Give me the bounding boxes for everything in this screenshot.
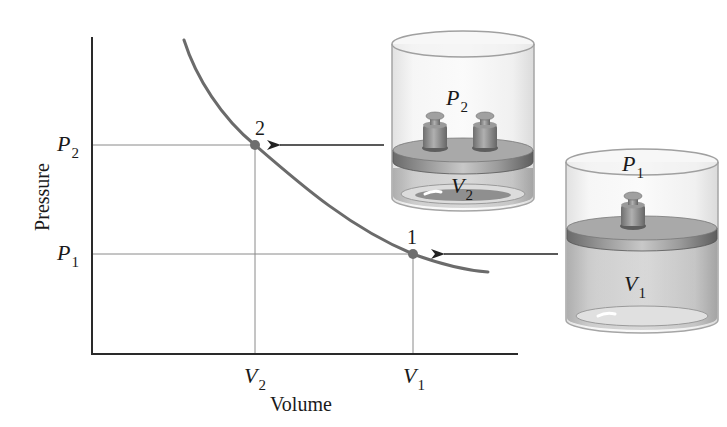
x-tick-v1-sub: 1 (417, 377, 425, 393)
piston-top-2 (393, 138, 533, 162)
point-2-marker (250, 140, 260, 150)
guide-lines (92, 145, 413, 354)
beaker-2-volume-var: V (451, 173, 464, 198)
diagram-canvas (0, 0, 727, 427)
beaker-2-volume-sub: 2 (465, 187, 473, 203)
beaker-base-1 (576, 306, 708, 326)
boyles-law-diagram: P2 P1 Pressure V2 V1 Volume 2 1 P2 V2 P1… (0, 0, 727, 427)
beaker-1-volume-sub: 1 (638, 285, 646, 301)
x-tick-v2-sub: 2 (258, 377, 266, 393)
x-tick-v2-var: V (244, 363, 257, 388)
x-tick-v1: V1 (403, 365, 425, 387)
y-tick-p1-sub: 1 (71, 254, 79, 270)
beaker-1-volume-var: V (624, 271, 637, 296)
y-tick-p2: P2 (57, 133, 79, 155)
point-1-label: 1 (407, 227, 417, 247)
point-2-label: 2 (255, 118, 265, 138)
y-tick-p2-var: P (57, 131, 70, 156)
x-tick-v1-var: V (403, 363, 416, 388)
point-1-marker (408, 249, 418, 259)
beaker-1-volume-label: V1 (624, 273, 646, 295)
beaker-rim-2 (392, 31, 534, 57)
x-axis-title: Volume (270, 394, 332, 414)
y-tick-p1-var: P (57, 240, 70, 265)
beaker-2-pressure-label: P2 (446, 87, 468, 109)
beaker-2-pressure-var: P (446, 85, 459, 110)
y-tick-p1: P1 (57, 242, 79, 264)
beaker-1-pressure-sub: 1 (636, 165, 644, 181)
beaker-1-pressure-var: P (622, 151, 635, 176)
y-axis-title: Pressure (32, 157, 52, 237)
beaker-1-pressure-label: P1 (622, 153, 644, 175)
y-tick-p2-sub: 2 (71, 145, 79, 161)
beaker-2-volume-label: V2 (451, 175, 473, 197)
x-tick-v2: V2 (244, 365, 266, 387)
beaker-2-pressure-sub: 2 (460, 99, 468, 115)
